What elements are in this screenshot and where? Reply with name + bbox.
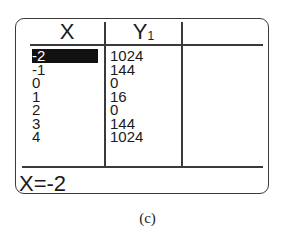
status-line: X=-2 bbox=[19, 172, 66, 196]
column-divider-y1-empty bbox=[181, 22, 183, 166]
column-header-x-label: X bbox=[60, 19, 75, 44]
column-header-y1: Y1 bbox=[106, 20, 181, 47]
x-cell[interactable]: 3 bbox=[32, 117, 102, 131]
y1-cell[interactable]: 144 bbox=[110, 63, 180, 77]
x-column: -2 -1 0 1 2 3 4 bbox=[32, 49, 102, 144]
column-header-x: X bbox=[30, 20, 104, 44]
y1-cell[interactable]: 16 bbox=[110, 90, 180, 104]
x-cell[interactable]: 2 bbox=[32, 103, 102, 117]
column-header-y1-subscript: 1 bbox=[148, 29, 155, 43]
status-divider bbox=[22, 166, 263, 168]
x-cell[interactable]: 1 bbox=[32, 90, 102, 104]
x-cell[interactable]: -1 bbox=[32, 63, 102, 77]
figure-caption: (c) bbox=[0, 210, 295, 227]
x-cell[interactable]: 0 bbox=[32, 76, 102, 90]
y1-cell[interactable]: 1024 bbox=[110, 130, 180, 144]
x-cell[interactable]: 4 bbox=[32, 130, 102, 144]
column-header-y1-label: Y bbox=[133, 19, 148, 44]
y1-column: 1024 144 0 16 0 144 1024 bbox=[110, 49, 180, 144]
